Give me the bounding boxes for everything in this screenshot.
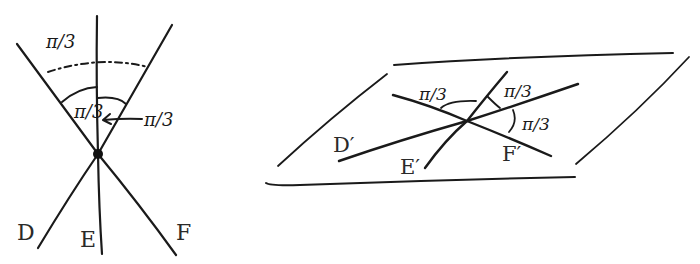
label-f: F xyxy=(176,220,191,245)
outer-dashed-arc xyxy=(48,62,148,72)
plane-right-edge xyxy=(576,57,689,164)
diagram-canvas: π/3 π/3 π/3 D E F π/3 π/3 π/3 D′ E′ F′ xyxy=(0,0,700,264)
angle-label-outer: π/3 xyxy=(45,31,75,52)
label-e-prime: E′ xyxy=(400,155,420,179)
angle-label-top-right: π/3 xyxy=(503,81,532,101)
label-d-prime: D′ xyxy=(333,133,355,157)
angle-arc-right xyxy=(509,110,515,132)
label-d: D xyxy=(17,220,35,245)
left-figure: π/3 π/3 π/3 D E F xyxy=(17,16,191,255)
intersection-point xyxy=(93,149,103,159)
angle-arc-top-right xyxy=(487,96,500,108)
right-figure: π/3 π/3 π/3 D′ E′ F′ xyxy=(266,53,689,185)
angle-label-right: π/3 xyxy=(521,114,550,134)
line-d xyxy=(17,44,98,248)
plane-top-edge xyxy=(394,53,673,65)
angle-label-inner-left: π/3 xyxy=(73,101,103,122)
line-f xyxy=(98,25,176,255)
angle-pointer-arrow xyxy=(103,114,142,124)
angle-label-left: π/3 xyxy=(418,84,447,104)
label-f-prime: F′ xyxy=(502,142,522,166)
line-e xyxy=(97,16,102,254)
plane-bottom-edge xyxy=(266,177,575,185)
angle-label-inner-right: π/3 xyxy=(143,109,173,130)
inner-left-arc xyxy=(62,87,97,102)
label-e: E xyxy=(80,227,96,252)
